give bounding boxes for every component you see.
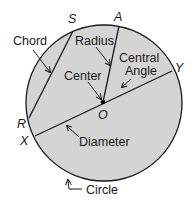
point-y-label: Y — [175, 61, 185, 75]
center-point — [101, 100, 106, 105]
point-s-label: S — [68, 12, 77, 26]
point-x-label: X — [19, 134, 29, 148]
circle-label: Circle — [86, 183, 118, 197]
point-o-label: O — [98, 108, 108, 122]
chord-label: Chord — [13, 34, 47, 48]
central-angle-label-line2: Angle — [125, 64, 157, 78]
central-angle-label-line1: Central — [119, 51, 159, 65]
circle-diagram: S A Y R X O Chord Radius Central Angle C… — [0, 0, 194, 202]
radius-label: Radius — [75, 34, 114, 48]
circle-arrow — [68, 180, 82, 189]
center-label: Center — [64, 69, 102, 83]
point-r-label: R — [17, 117, 26, 131]
diameter-label: Diameter — [79, 135, 130, 149]
point-a-label: A — [113, 10, 122, 24]
